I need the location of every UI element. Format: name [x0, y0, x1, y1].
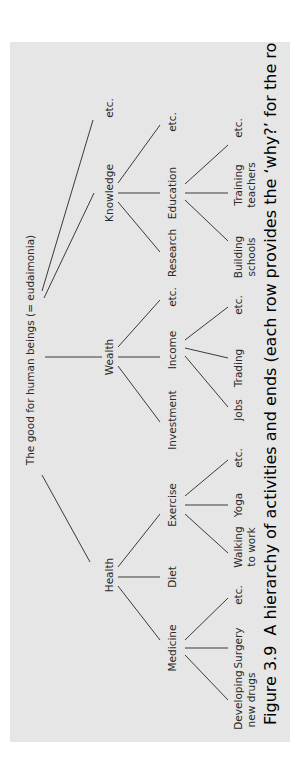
svg-text:etc.: etc.	[232, 448, 244, 468]
node-surgery: Surgery	[232, 627, 244, 668]
figure-panel: The good for human beings (= eudaimonia)…	[10, 42, 290, 742]
node-diet: Diet	[166, 566, 178, 588]
node-trading: Trading	[232, 349, 244, 389]
hierarchy-diagram: The good for human beings (= eudaimonia)…	[10, 42, 290, 742]
edge-education-etc	[185, 145, 228, 184]
node-health: Health	[103, 558, 115, 592]
node-building-schools: Building schools	[232, 236, 257, 279]
figure-caption-text: A hierarchy of activities and ends (each…	[261, 42, 280, 636]
edge-income-etc	[185, 307, 228, 340]
figure-caption: Figure 3.9 A hierarchy of activities and…	[261, 42, 280, 725]
node-medicine: Medicine	[166, 625, 178, 672]
edge-wealth-investment	[118, 366, 160, 422]
edge-root-health	[42, 475, 90, 562]
svg-text:etc.: etc.	[232, 585, 244, 605]
edge-health-medicine	[118, 586, 160, 640]
edge-income-trading	[185, 348, 228, 358]
figure-number: Figure 3.9	[261, 646, 280, 725]
edge-medicine-etc	[185, 598, 228, 640]
edge-exercise-walking	[185, 514, 228, 553]
node-etc-income: etc.	[232, 295, 244, 315]
node-education: Education	[166, 167, 178, 219]
node-training-teachers: Training teachers	[232, 162, 257, 208]
edge-wealth-etc	[118, 300, 160, 347]
node-developing-new-drugs: Developing new drugs	[232, 670, 257, 729]
edge-medicine-drugs	[185, 655, 228, 700]
edge-exercise-etc	[185, 460, 228, 496]
edge-root-etc	[42, 120, 93, 291]
diagram-frame: The good for human beings (= eudaimonia)…	[10, 42, 290, 742]
node-income: Income	[166, 331, 178, 370]
node-research: Research	[166, 229, 178, 277]
edge-knowledge-research	[118, 202, 160, 252]
node-etc-exercise: etc.	[232, 448, 244, 468]
edge-knowledge-etc	[118, 125, 160, 183]
node-etc-l2: etc.	[103, 98, 115, 118]
root-node: The good for human beings (= eudaimonia)	[24, 235, 36, 466]
node-investment: Investment	[166, 390, 178, 449]
node-jobs: Jobs	[232, 399, 244, 422]
node-etc-wealth: etc.	[166, 287, 178, 307]
svg-text:Building: Building	[232, 236, 244, 279]
svg-text:etc.: etc.	[232, 295, 244, 315]
edge-health-exercise	[118, 514, 160, 567]
svg-text:to work: to work	[245, 526, 257, 566]
svg-text:etc.: etc.	[232, 118, 244, 138]
node-etc-education: etc.	[232, 118, 244, 138]
svg-text:Walking: Walking	[232, 526, 244, 567]
node-yoga: Yoga	[232, 493, 244, 519]
svg-text:Developing: Developing	[232, 670, 244, 729]
node-walking-to-work: Walking to work	[232, 526, 257, 567]
svg-text:Jobs: Jobs	[232, 399, 244, 422]
svg-text:schools: schools	[245, 237, 257, 276]
svg-text:Surgery: Surgery	[232, 627, 244, 668]
node-exercise: Exercise	[166, 483, 178, 527]
node-etc-medicine: etc.	[232, 585, 244, 605]
node-etc-knowledge: etc.	[166, 112, 178, 132]
svg-text:Trading: Trading	[232, 349, 244, 389]
node-wealth: Wealth	[103, 339, 115, 375]
edge-income-jobs	[185, 356, 228, 407]
edge-root-knowledge	[44, 193, 94, 298]
svg-text:new drugs: new drugs	[245, 673, 257, 728]
svg-text:teachers: teachers	[245, 162, 257, 208]
edge-education-building	[185, 200, 228, 241]
node-knowledge: Knowledge	[103, 164, 115, 222]
svg-text:Training: Training	[232, 164, 244, 206]
svg-text:Yoga: Yoga	[232, 493, 244, 519]
